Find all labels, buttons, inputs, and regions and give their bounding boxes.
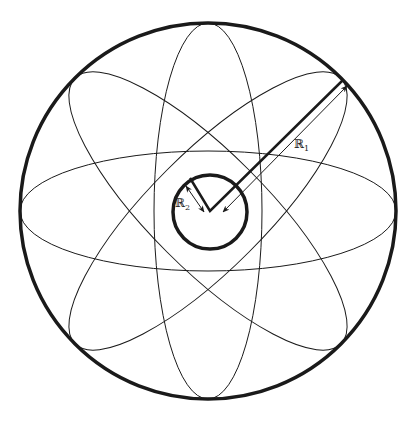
ellipses-group — [20, 23, 396, 399]
diagram-canvas: ℝ1 ℝ2 — [0, 0, 413, 421]
ellipse-135deg — [34, 37, 382, 385]
ellipse-0deg — [20, 151, 396, 271]
label-r1: ℝ1 — [294, 137, 309, 153]
outer-circle — [20, 23, 396, 399]
r1-arrow — [223, 86, 347, 212]
ellipse-45deg — [34, 37, 382, 385]
thick-radius-lines — [190, 80, 343, 211]
label-r2: ℝ2 — [175, 196, 190, 212]
